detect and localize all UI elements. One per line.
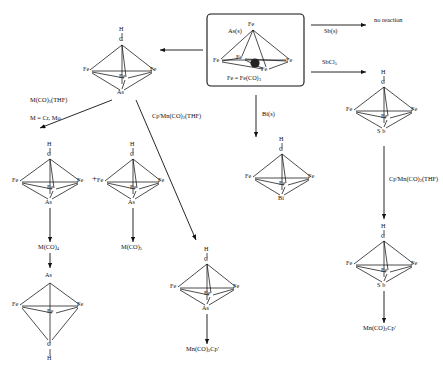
left-cluster-as-label: As [117, 89, 124, 95]
scheme-lines [0, 0, 443, 380]
productBi-c-label: C [279, 146, 283, 152]
left-cluster-fe-center-label: Fe [119, 73, 125, 79]
productSb-fe-left-label: Fe [346, 106, 352, 112]
reagent-bi-s: Bi(s) [262, 111, 275, 117]
productA-fe-center-label: Fe [47, 184, 53, 190]
productA-as-label: As [45, 199, 52, 205]
productE-h-label: H [381, 223, 386, 229]
box-fe-left-label: Fe [213, 57, 219, 63]
productBi-bi-label: Bi [278, 195, 284, 201]
box-fe-apex-label: Fe [248, 21, 254, 27]
productB-fe-left-label: Fe [97, 177, 103, 183]
reagent-cpmn-left: Cp'Mn(CO)2(THF) [152, 113, 201, 121]
productBi-fe-center-label: Fe [279, 180, 285, 186]
productB-c-label: C [130, 151, 134, 157]
productE-sb-label: S b [377, 282, 385, 288]
productC-fe-right-label: Fe [77, 301, 83, 307]
productC-fe-center-label: Fe [47, 308, 53, 314]
reagent-as-s: As(s) [228, 28, 242, 34]
productD-mn-co2cp-label: Mn(CO)2Cp' [186, 346, 219, 354]
productB-m-co5-label: M(CO)5 [121, 244, 142, 252]
productSb-sb-label: S b [377, 128, 385, 134]
productBi-fe-right-label: Fe [308, 173, 314, 179]
productSb-fe-right-label: Fe [411, 106, 417, 112]
productB-fe-right-label: Fe [158, 177, 164, 183]
productE-mn-co2cp-label: Mn(CO)2Cp' [363, 325, 396, 333]
productD-fe-left-label: Fe [170, 283, 176, 289]
productB-as-label: As [128, 199, 135, 205]
box-fe-mid-label: Fe [236, 54, 242, 60]
left-cluster-fe-right-label: Fe [150, 66, 156, 72]
box-caption: Fe = Fe(CO)3 [227, 75, 261, 83]
productSb-c-label: C [381, 79, 385, 85]
productSb-fe-center-label: Fe [381, 113, 387, 119]
box-fe-front-label: Fe [261, 66, 267, 72]
productSb-h-label: H [381, 69, 386, 75]
productD-as-label: As [202, 305, 209, 311]
reagent-m-identity: M = Cr, Mo [30, 115, 61, 121]
productC-fe-left-label: Fe [12, 301, 18, 307]
left-cluster-fe-left-label: Fe [83, 66, 89, 72]
productE-fe-center-label: Fe [381, 267, 387, 273]
product-no-reaction: no reaction [374, 17, 403, 23]
productBi-h-label: H [279, 136, 284, 142]
productA-c-label: C [47, 151, 51, 157]
productA-h-label: H [47, 141, 52, 147]
left-cluster-h-label: H [119, 26, 124, 32]
productBi-fe-left-label: Fe [245, 173, 251, 179]
productE-c-label: C [381, 233, 385, 239]
reagent-sb-s: Sb(s) [324, 28, 338, 34]
reagent-cpmn-right: Cp'Mn(CO)2(THF) [389, 176, 438, 184]
productD-h-label: H [204, 246, 209, 252]
reaction-scheme: Fe Fe Fe Fe Fe Fe = Fe(CO)3 As(s) Sb(s) … [0, 0, 443, 380]
box-fe-right-label: Fe [286, 57, 292, 63]
productC-h-label: H [47, 355, 52, 361]
productD-fe-right-label: Fe [233, 283, 239, 289]
productD-fe-center-label: Fe [204, 290, 210, 296]
productE-fe-left-label: Fe [346, 260, 352, 266]
reagent-m-co5-thf: M(CO)5(THF) [30, 97, 67, 105]
productC-c-label: C [47, 341, 51, 347]
productA-fe-left-label: Fe [12, 177, 18, 183]
reagent-sbcl5: SbCl5 [322, 59, 337, 67]
productE-fe-right-label: Fe [411, 260, 417, 266]
productB-fe-center-label: Fe [130, 184, 136, 190]
productA-fe-right-label: Fe [77, 177, 83, 183]
productC-as-label: As [45, 272, 52, 278]
productA-m-co4-label: M(CO)4 [38, 244, 59, 252]
left-cluster-c-label: C [119, 36, 123, 42]
productB-h-label: H [130, 141, 135, 147]
productD-c-label: C [204, 256, 208, 262]
